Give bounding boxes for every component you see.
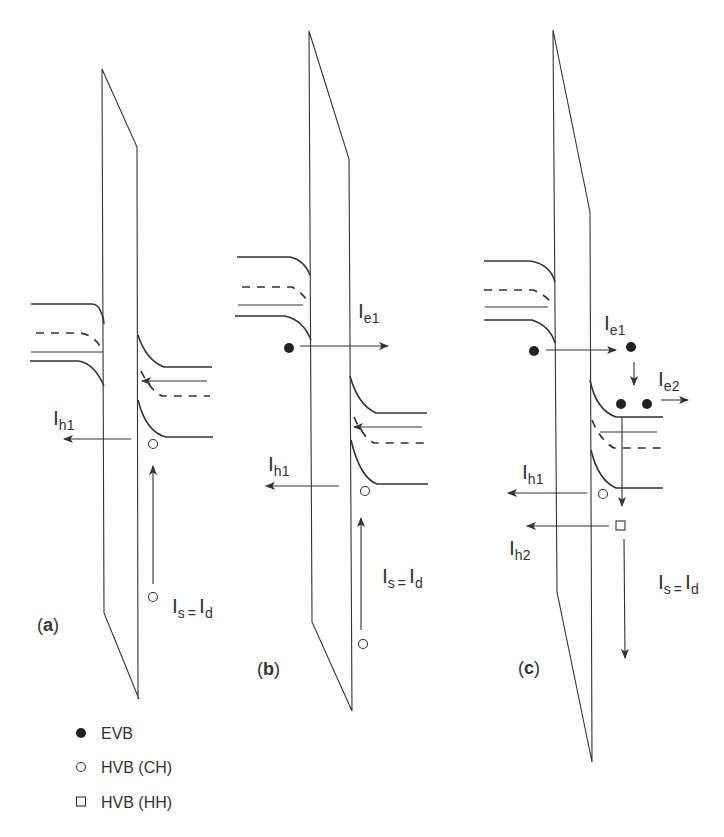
hole-ch-icon (359, 640, 368, 649)
panel-label-c: (c) (518, 658, 540, 678)
panel-c: Ie1 Ie2 Ih1 Ih2 Is=Id (c) (484, 30, 699, 762)
filled-circle-icon (76, 728, 86, 738)
left-conduction-band-a (31, 304, 104, 324)
hole-hh-icon (616, 521, 625, 530)
left-conduction-band-c (484, 261, 555, 282)
is-equals-id-label-a: Is=Id (172, 594, 213, 621)
panel-label-a: (a) (37, 615, 59, 635)
open-circle-icon (77, 763, 86, 772)
panel-a: Ih1 Is=Id (a) (30, 69, 213, 699)
ih2-label-c: Ih2 (509, 536, 531, 563)
is-current-arrow-c (624, 539, 625, 658)
left-conduction-band-b (237, 257, 310, 275)
panel-label-b: (b) (257, 659, 280, 679)
electron-evb-icon (616, 399, 626, 409)
right-conduction-band-a (138, 335, 212, 367)
ih1-label-a: Ih1 (53, 406, 75, 433)
left-fermi-level-b (242, 287, 308, 302)
electron-evb-icon (284, 343, 294, 353)
open-square-icon (77, 797, 86, 806)
right-conduction-band-b (350, 376, 427, 413)
hole-ch-icon (599, 490, 608, 499)
left-valence-band-a (30, 361, 104, 386)
electron-evb-icon (626, 342, 636, 352)
ie1-label-b: Ie1 (358, 299, 380, 326)
left-fermi-level-a (36, 333, 102, 350)
electron-evb-icon (642, 399, 652, 409)
legend-label-hvb-ch: HVB (CH) (101, 759, 172, 776)
oxide-barrier-b (309, 31, 352, 711)
right-fermi-level-a (141, 371, 210, 396)
ih1-label-b: Ih1 (268, 452, 290, 479)
left-valence-band-b (235, 316, 311, 340)
right-fermi-level-b (354, 417, 425, 443)
electron-evb-icon (529, 346, 539, 356)
right-conduction-band-c (590, 380, 663, 417)
ih1-label-c: Ih1 (522, 460, 544, 487)
hole-ch-icon (361, 487, 370, 496)
ie1-label-c: Ie1 (604, 311, 626, 338)
right-valence-band-c (591, 450, 663, 488)
legend: EVB HVB (CH) HVB (HH) (76, 725, 172, 811)
left-fermi-level-c (484, 290, 551, 303)
right-valence-band-a (138, 400, 213, 437)
right-fermi-level-c (592, 420, 663, 448)
legend-label-evb: EVB (101, 725, 133, 742)
oxide-barrier-c (553, 30, 592, 762)
ie2-label-c: Ie2 (658, 367, 680, 394)
hole-ch-icon (149, 593, 158, 602)
left-valence-band-c (484, 320, 555, 343)
is-equals-id-label-b: Is=Id (382, 564, 423, 591)
is-equals-id-label-c: Is=Id (658, 570, 699, 597)
oxide-barrier-a (102, 69, 139, 699)
legend-label-hvb-hh: HVB (HH) (101, 794, 172, 811)
right-valence-band-b (351, 440, 428, 484)
hole-ch-icon (149, 440, 158, 449)
panel-b: Ie1 Ih1 Is=Id (b) (235, 31, 428, 711)
band-diagram-figure: Ih1 Is=Id (a) Ie1 Ih1 Is=Id (b) (0, 0, 724, 837)
